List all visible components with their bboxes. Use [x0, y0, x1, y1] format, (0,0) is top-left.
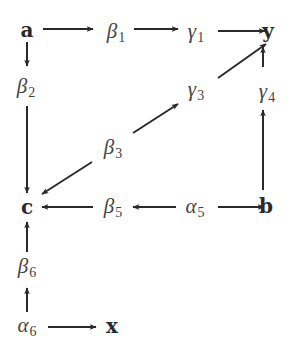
node-a5: α5	[185, 196, 204, 220]
node-subscript: 6	[30, 324, 37, 339]
node-symbol: y	[262, 19, 274, 43]
node-b: b	[259, 196, 273, 216]
node-symbol: β	[104, 194, 114, 218]
arrow-b3-to-c	[42, 162, 92, 194]
node-symbol: c	[21, 195, 33, 219]
node-symbol: α	[185, 194, 196, 218]
node-b1: β1	[107, 21, 125, 45]
node-subscript: 3	[197, 88, 204, 103]
node-symbol: β	[17, 74, 27, 98]
node-subscript: 1	[197, 30, 204, 45]
node-c: c	[21, 197, 33, 217]
node-b6: β6	[18, 256, 36, 280]
node-subscript: 5	[115, 205, 122, 220]
commutative-diagram: aβ1γ1yβ2γ3γ4β3cβ5α5bβ6α6x	[0, 0, 300, 349]
node-subscript: 4	[268, 90, 275, 105]
node-symbol: β	[18, 254, 28, 278]
node-g3: γ3	[188, 79, 204, 103]
node-symbol: b	[259, 194, 273, 218]
arrow-b3-to-g3	[133, 104, 178, 133]
node-b2: β2	[17, 76, 35, 100]
node-subscript: 2	[28, 85, 35, 100]
node-a6: α6	[17, 315, 36, 339]
node-x: x	[106, 316, 118, 336]
node-y: y	[262, 21, 274, 41]
node-subscript: 1	[118, 30, 125, 45]
node-a: a	[21, 20, 34, 40]
node-subscript: 5	[198, 205, 205, 220]
node-symbol: γ	[188, 19, 196, 43]
node-b5: β5	[104, 196, 122, 220]
node-symbol: γ	[259, 79, 267, 103]
node-g1: γ1	[188, 21, 204, 45]
node-subscript: 6	[29, 265, 36, 280]
node-subscript: 3	[115, 146, 122, 161]
node-symbol: β	[104, 135, 114, 159]
node-b3: β3	[104, 137, 122, 161]
node-g4: γ4	[259, 81, 275, 105]
node-symbol: γ	[188, 77, 196, 101]
node-symbol: a	[21, 18, 34, 42]
node-symbol: α	[17, 313, 28, 337]
node-symbol: x	[106, 314, 118, 338]
edges-layer	[0, 0, 300, 349]
arrow-g3-to-y	[218, 44, 266, 78]
node-symbol: β	[107, 19, 117, 43]
